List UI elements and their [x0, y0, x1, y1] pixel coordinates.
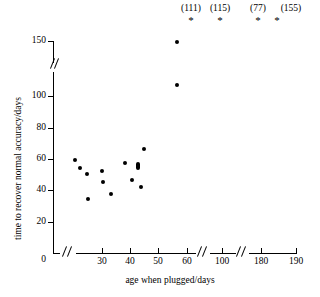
x-tick-label-30: 30 [87, 257, 117, 267]
x-tick-mark-190 [296, 248, 297, 253]
data-point [142, 147, 146, 151]
y-tick-mark-60 [48, 159, 53, 160]
x-tick-mark-60 [187, 248, 188, 253]
x-axis-line-seg-1 [76, 253, 196, 254]
x-axis-label: age when plugged/days [95, 275, 245, 285]
data-point [109, 192, 113, 196]
x-axis-break-0 [62, 246, 74, 260]
y-tick-label-0: 0 [16, 255, 46, 265]
x-axis-line-seg-0 [53, 253, 60, 254]
offscale-marker-3: * [254, 15, 300, 26]
y-tick-mark-80 [48, 128, 53, 129]
x-tick-mark-30 [102, 248, 103, 253]
y-axis-line-lower [53, 72, 54, 254]
y-axis-break [50, 58, 60, 72]
data-point-overlapping [136, 162, 140, 170]
y-tick-mark-150 [48, 41, 53, 42]
x-tick-label-50: 50 [143, 257, 173, 267]
y-tick-mark-100 [48, 96, 53, 97]
y-axis-label: time to recover normal accuracy/days [13, 97, 23, 240]
data-point [100, 169, 104, 173]
x-tick-mark-180 [261, 248, 262, 253]
y-tick-mark-20 [48, 222, 53, 223]
y-tick-label-150: 150 [16, 36, 46, 46]
offscale-marker-1: * [197, 15, 243, 26]
data-point [175, 40, 179, 44]
x-axis-line-seg-2 [210, 253, 236, 254]
offscale-label-3: (155) [268, 3, 314, 13]
x-tick-label-100: 100 [207, 257, 237, 267]
data-point [175, 83, 179, 87]
y-tick-mark-40 [48, 190, 53, 191]
data-point [86, 197, 90, 201]
data-point [73, 158, 77, 162]
x-tick-mark-50 [158, 248, 159, 253]
offscale-label-1: (115) [197, 3, 243, 13]
x-tick-label-190: 190 [281, 257, 311, 267]
x-tick-label-60: 60 [172, 257, 202, 267]
x-tick-mark-100 [222, 248, 223, 253]
scatter-plot-figure: (111) * (115) * (77) * (155) * 150 100 [0, 0, 320, 297]
x-tick-mark-40 [130, 248, 131, 253]
data-point [78, 166, 82, 170]
data-point [101, 180, 105, 184]
data-point [130, 178, 134, 182]
x-tick-label-40: 40 [115, 257, 145, 267]
data-point [123, 161, 127, 165]
x-tick-label-180: 180 [246, 257, 276, 267]
x-axis-line-seg-3 [249, 253, 297, 254]
data-point [85, 172, 89, 176]
data-point [139, 185, 143, 189]
